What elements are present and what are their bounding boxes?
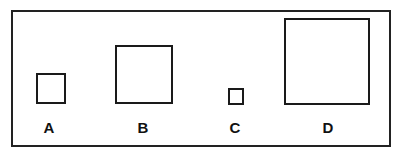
label-d: D bbox=[313, 119, 343, 136]
label-a: A bbox=[34, 119, 64, 136]
square-d bbox=[284, 18, 370, 105]
square-a bbox=[36, 73, 66, 104]
square-c bbox=[228, 88, 244, 105]
label-c: C bbox=[220, 119, 250, 136]
label-b: B bbox=[128, 119, 158, 136]
square-b bbox=[115, 45, 173, 104]
